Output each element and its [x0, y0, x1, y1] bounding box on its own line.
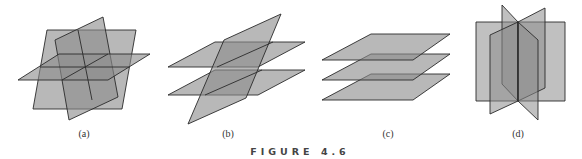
plane-wing-lower-right [518, 22, 538, 120]
figure-title: FIGURE 4.6 [250, 146, 349, 157]
plane-wing-lower-left [490, 22, 518, 114]
panel-d-label: (d) [512, 128, 524, 140]
panel-a-label: (a) [78, 128, 89, 140]
panel-c-diagram [322, 34, 450, 100]
figure-4-6: (a) (b) (c) (d) FIGURE 4.6 [0, 0, 582, 159]
panel-b-label: (b) [222, 128, 234, 140]
panel-d-diagram [476, 5, 565, 120]
panel-b-diagram [168, 14, 305, 124]
panel-c-label: (c) [382, 128, 393, 140]
panel-a-diagram [18, 17, 150, 120]
plane-tilted [188, 14, 281, 124]
